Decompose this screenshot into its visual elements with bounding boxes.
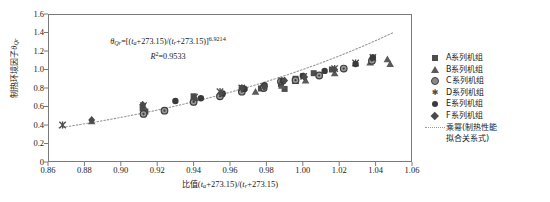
y-axis-title: 制热环境因子θQr [9, 3, 21, 133]
legend-item[interactable]: B系列机组 [424, 64, 548, 76]
legend-item-label: F系列机组 [446, 110, 483, 122]
x-tick-label: 1.06 [395, 166, 429, 175]
legend-fit-label-line2: 拟合关系式) [446, 133, 548, 144]
x-tick-label: 0.96 [213, 166, 247, 175]
r-squared-value: 0.9533 [163, 52, 186, 61]
x-tick-label: 1.00 [286, 166, 320, 175]
legend-item-label: B系列机组 [446, 64, 484, 76]
x-axis-title-cjk: 比值 [182, 180, 198, 189]
legend-item[interactable]: ✱D系列机组 [424, 87, 548, 99]
y-axis-title-cjk: 制热环境因子 [10, 50, 19, 98]
y-tick-label: 0.2 [18, 139, 44, 148]
x-tick-labels: 0.860.880.900.920.940.960.981.001.021.04… [0, 166, 550, 180]
equation-annotation: θQr=[(ta+273.15)/(tr+273.15)]6.9214 R2=0… [78, 33, 258, 62]
y-tick-label: 1.4 [18, 28, 44, 37]
chart-legend: A系列机组B系列机组C系列机组✱D系列机组E系列机组F系列机组乘幂(制热性能拟合… [424, 52, 548, 144]
legend-marker-filled-triangle [424, 64, 446, 76]
legend-marker-filled-circle [424, 98, 446, 110]
legend-item-label: E系列机组 [446, 98, 483, 110]
y-tick-label: 0.6 [18, 102, 44, 111]
legend-item-label: A系列机组 [446, 52, 483, 64]
series-x-asterisk [59, 54, 376, 129]
legend-item[interactable]: C系列机组 [424, 75, 548, 87]
x-tick-label: 0.88 [67, 166, 101, 175]
y-tick-label: 1.0 [18, 65, 44, 74]
x-tick-label: 1.02 [322, 166, 356, 175]
x-tick-label: 0.90 [104, 166, 138, 175]
x-tick-label: 0.94 [177, 166, 211, 175]
legend-marker-filled-diamond [424, 110, 446, 122]
legend-item[interactable]: A系列机组 [424, 52, 548, 64]
legend-item-fit[interactable]: 乘幂(制热性能 [424, 122, 548, 134]
x-tick-label: 0.92 [140, 166, 174, 175]
equation-line: θQr=[(ta+273.15)/(tr+273.15)]6.9214 [78, 33, 258, 48]
y-tick-label: 0.4 [18, 121, 44, 130]
x-tick-label: 1.04 [359, 166, 393, 175]
legend-marker-dotted-line [424, 122, 446, 134]
equation-exponent: 6.9214 [209, 35, 226, 42]
legend-fit-label-line1: 乘幂(制热性能 [446, 122, 497, 133]
data-points [59, 54, 394, 129]
legend-item[interactable]: E系列机组 [424, 98, 548, 110]
legend-marker-filled-square [424, 52, 446, 64]
legend-item-label: C系列机组 [446, 75, 484, 87]
chart-root: 00.20.40.60.81.01.21.41.6 0.860.880.900.… [0, 0, 550, 202]
series-patterned-circle [140, 57, 375, 117]
x-tick-label: 0.86 [31, 166, 65, 175]
legend-item-label: D系列机组 [446, 87, 484, 99]
x-axis-title: 比值(ta+273.15)/(tr+273.15) [48, 179, 412, 191]
x-axis-title-expr: (ta+273.15)/(tr+273.15) [198, 179, 278, 189]
r-squared-line: R2=0.9533 [78, 48, 258, 62]
y-axis-title-symbol: θ [9, 46, 19, 50]
x-tick-label: 0.98 [249, 166, 283, 175]
legend-item[interactable]: F系列机组 [424, 110, 548, 122]
y-tick-label: 0.8 [18, 84, 44, 93]
legend-marker-x-asterisk: ✱ [424, 87, 446, 99]
y-tick-label: 1.6 [18, 10, 44, 19]
legend-marker-patterned-circle [424, 75, 446, 87]
y-tick-label: 1.2 [18, 47, 44, 56]
y-axis-title-subscript: Qr [12, 39, 19, 46]
y-axis-ticks [44, 14, 48, 162]
